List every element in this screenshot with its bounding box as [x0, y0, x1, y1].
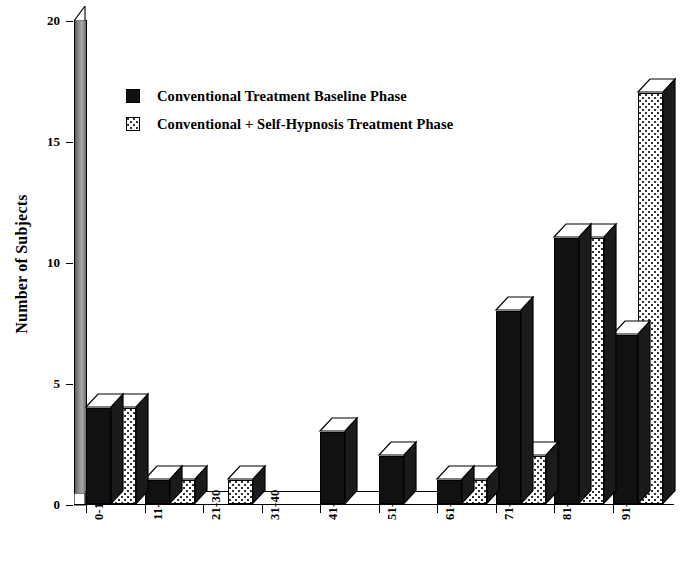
bar-81-90-self-hypnosis [579, 238, 604, 504]
bar-front-face [496, 311, 521, 505]
bar-front-face [170, 480, 195, 504]
bar-front-face [579, 238, 604, 504]
y-tick-mark [66, 142, 73, 143]
y-tick-mark [66, 384, 73, 385]
bar-11-20-baseline [145, 480, 170, 504]
bar-front-face [86, 408, 111, 505]
y-tick-label: 10 [26, 256, 60, 269]
legend-label: Conventional Treatment Baseline Phase [157, 88, 407, 105]
bar-11-20-self-hypnosis [170, 480, 195, 504]
x-tick-mark [613, 505, 614, 513]
bar-0-10-self-hypnosis [111, 408, 136, 505]
bar-front-face [613, 335, 638, 504]
y-tick-label: 20 [26, 14, 60, 27]
chart-legend: Conventional Treatment Baseline Phase Co… [126, 82, 453, 138]
y-tick-mark [66, 21, 73, 22]
x-tick-mark [379, 505, 380, 513]
x-tick-mark [145, 505, 146, 513]
y-tick-mark [66, 263, 73, 264]
x-tick-mark [496, 505, 497, 513]
legend-swatch-dotted-icon [126, 117, 140, 131]
x-tick-mark [554, 505, 555, 513]
bar-front-face [554, 238, 579, 504]
bar-61-70-self-hypnosis [462, 480, 487, 504]
x-tick-mark [262, 505, 263, 513]
bar-front-face [379, 456, 404, 504]
bar-chart: Number of Subjects 05101520 0-1011-2021-… [0, 0, 683, 569]
bar-front-face [437, 480, 462, 504]
legend-item: Conventional + Self-Hypnosis Treatment P… [126, 110, 453, 138]
bar-front-face [145, 480, 170, 504]
y-tick-label: 15 [26, 135, 60, 148]
bar-51-60-baseline [379, 456, 404, 504]
legend-swatch-dark-icon [126, 89, 140, 103]
legend-item: Conventional Treatment Baseline Phase [126, 82, 453, 110]
y-tick-label: 5 [26, 377, 60, 390]
x-tick-mark [203, 505, 204, 513]
bar-front-face [111, 408, 136, 505]
bar-front-face [462, 480, 487, 504]
bar-front-face [638, 93, 663, 504]
y-tick-mark [66, 505, 73, 506]
bar-front-face [228, 480, 253, 504]
bar-front-face [521, 456, 546, 504]
x-tick-mark [320, 505, 321, 513]
bar-0-10-baseline [86, 408, 111, 505]
bar-41-50-baseline [320, 432, 345, 505]
legend-label: Conventional + Self-Hypnosis Treatment P… [157, 116, 453, 133]
x-tick-mark [86, 505, 87, 513]
x-tick-mark [437, 505, 438, 513]
y-axis-wall-cap [74, 6, 86, 21]
bar-61-70-baseline [437, 480, 462, 504]
bar-front-face [320, 432, 345, 505]
bar-81-90-baseline [554, 238, 579, 504]
bar-91-100-self-hypnosis [638, 93, 663, 504]
y-tick-label: 0 [26, 498, 60, 511]
bar-71-80-self-hypnosis [521, 456, 546, 504]
bar-21-30-self-hypnosis [228, 480, 253, 504]
bar-71-80-baseline [496, 311, 521, 505]
bar-91-100-baseline [613, 335, 638, 504]
